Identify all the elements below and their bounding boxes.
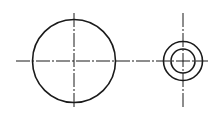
drawing-svg: [0, 0, 221, 118]
technical-drawing: [0, 0, 221, 118]
